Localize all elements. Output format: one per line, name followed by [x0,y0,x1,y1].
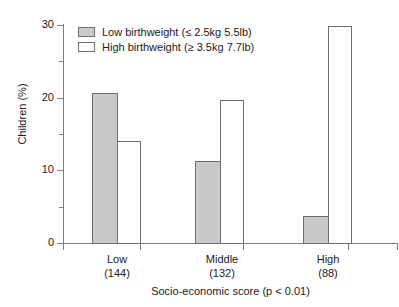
y-tick-minor-5 [59,207,63,208]
y-tick-minor-25 [59,61,63,62]
legend-swatch-low-birthweight [78,27,95,37]
bar-chart-figure: 30 20 10 0 Children (%) Low (144) Middle… [0,0,399,307]
y-tick-label-30: 30 [24,19,54,30]
bar-low-birthweight-middle-ses [195,161,221,244]
bar-high-birthweight-middle-ses [220,100,244,244]
bar-high-birthweight-high-ses [328,26,352,244]
y-tick-20 [57,98,63,99]
x-category-label-middle: Middle (132) [177,252,267,280]
y-axis-line [63,24,64,244]
x-tick-2 [243,244,244,250]
x-category-name-middle: Middle [206,253,238,265]
legend-label-low-birthweight: Low birthweight (≤ 2.5kg 5.5lb) [102,26,252,38]
y-tick-10 [57,170,63,171]
bar-low-birthweight-low-ses [92,93,118,244]
y-axis-title: Children (%) [16,54,28,174]
x-axis-title: Socio-economic score (p < 0.01) [63,285,398,297]
x-category-count-low: (144) [72,266,162,280]
bar-high-birthweight-low-ses [117,141,141,244]
y-tick-minor-15 [59,134,63,135]
legend-label-high-birthweight: High birthweight (≥ 3.5kg 7.7lb) [102,41,254,53]
x-category-label-low: Low (144) [72,252,162,280]
y-tick-label-20: 20 [24,92,54,103]
x-tick-1 [140,244,141,250]
legend-item-low-birthweight: Low birthweight (≤ 2.5kg 5.5lb) [78,24,254,39]
bar-low-birthweight-high-ses [303,216,329,244]
legend-swatch-high-birthweight [78,42,95,52]
x-tick-end [397,244,398,250]
x-tick-3 [348,244,349,250]
x-category-count-high: (88) [283,266,373,280]
y-tick-30 [57,25,63,26]
x-category-name-low: Low [107,253,127,265]
y-tick-label-0: 0 [24,237,54,248]
x-category-name-high: High [317,253,340,265]
y-tick-label-10: 10 [24,164,54,175]
legend: Low birthweight (≤ 2.5kg 5.5lb) High bir… [78,24,254,54]
legend-item-high-birthweight: High birthweight (≥ 3.5kg 7.7lb) [78,39,254,54]
x-category-label-high: High (88) [283,252,373,280]
x-tick-start [63,244,64,250]
x-category-count-middle: (132) [177,266,267,280]
